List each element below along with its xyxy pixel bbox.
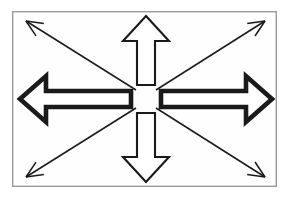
radiating-arrows-figure [0,0,288,198]
figure-canvas [0,0,288,198]
